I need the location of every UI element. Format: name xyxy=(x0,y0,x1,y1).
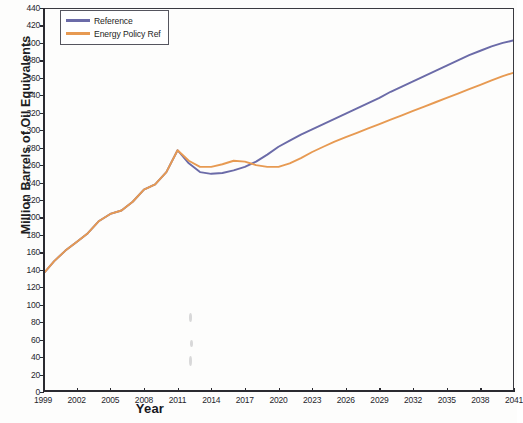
y-axis-tick-label: 140 xyxy=(6,265,40,275)
x-axis-tick-label: 2026 xyxy=(337,395,355,405)
x-axis-tick-label: 2008 xyxy=(135,395,153,405)
legend-label: Energy Policy Ref xyxy=(94,29,161,39)
x-axis-tick-label: 1999 xyxy=(34,395,52,405)
series-line-energy-policy-ref xyxy=(43,73,514,275)
legend-label: Reference xyxy=(94,16,133,26)
y-axis-tick-label: 40 xyxy=(6,352,40,362)
legend-item[interactable]: Reference xyxy=(66,14,161,27)
y-axis-tick-label: 360 xyxy=(6,73,40,83)
legend-color-swatch xyxy=(66,32,90,34)
y-axis-tick-label: 200 xyxy=(6,212,40,222)
y-axis-tick-label: 180 xyxy=(6,230,40,240)
x-axis-line xyxy=(43,390,514,392)
y-axis-tick-label: 20 xyxy=(6,370,40,380)
y-axis-tick-label: 340 xyxy=(6,90,40,100)
y-axis-tick-label: 220 xyxy=(6,195,40,205)
x-axis-tick-label: 2035 xyxy=(438,395,456,405)
x-axis-tick-label: 2038 xyxy=(471,395,489,405)
y-axis-tick-label: 160 xyxy=(6,247,40,257)
y-axis-tick-label: 320 xyxy=(6,108,40,118)
x-axis-tick-label: 2005 xyxy=(101,395,119,405)
x-axis-tick-label: 2029 xyxy=(370,395,388,405)
y-axis-tick-label: 280 xyxy=(6,143,40,153)
x-axis-tick-label: 2032 xyxy=(404,395,422,405)
data-lines xyxy=(43,8,514,392)
y-axis-tick-labels: 0204060801001201401601802002202402602803… xyxy=(2,8,40,392)
y-axis-tick-label: 380 xyxy=(6,55,40,65)
x-axis-tick-label: 2017 xyxy=(236,395,254,405)
y-axis-tick-label: 100 xyxy=(6,300,40,310)
plot-area xyxy=(43,8,514,392)
x-axis-tick-label: 2011 xyxy=(169,395,186,405)
y-axis-tick-label: 440 xyxy=(6,3,40,13)
y-axis-line xyxy=(43,8,45,392)
scan-artifact xyxy=(189,356,192,366)
x-axis-tick-label: 2002 xyxy=(68,395,86,405)
x-axis-tick-labels: 1999200220052008201120142017202020232026… xyxy=(43,393,517,409)
y-axis-tick-label: 300 xyxy=(6,125,40,135)
y-axis-tick-label: 60 xyxy=(6,335,40,345)
plot-frame-right xyxy=(513,8,514,392)
x-axis-tick-label: 2023 xyxy=(303,395,321,405)
scan-artifact xyxy=(190,340,193,347)
y-axis-tick-label: 120 xyxy=(6,282,40,292)
chart-legend: ReferenceEnergy Policy Ref xyxy=(60,10,169,45)
x-axis-tick-label: 2014 xyxy=(202,395,220,405)
legend-item[interactable]: Energy Policy Ref xyxy=(66,27,161,40)
x-axis-tick-label: 2020 xyxy=(269,395,287,405)
series-line-reference xyxy=(43,40,514,274)
x-axis-tick-label: 2041 xyxy=(505,395,523,405)
y-axis-tick-label: 400 xyxy=(6,38,40,48)
scan-artifact xyxy=(189,313,192,322)
y-axis-tick-label: 240 xyxy=(6,178,40,188)
legend-color-swatch xyxy=(66,19,90,21)
y-axis-tick-label: 260 xyxy=(6,160,40,170)
x-axis-tick-mark xyxy=(514,388,515,392)
y-axis-tick-label: 80 xyxy=(6,317,40,327)
y-axis-tick-label: 420 xyxy=(6,20,40,30)
